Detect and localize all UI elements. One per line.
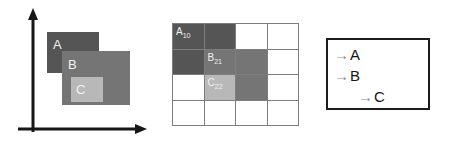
three-panel-diagram: A B C A10B21C22 → A → B → C [0,0,454,144]
rectangle-b-label: B [68,58,77,71]
x-axis-arrowhead [135,124,147,134]
arrow-list-box: → A → B → C [326,38,430,110]
grid-cell [236,75,268,101]
arrow-right-icon: → [334,47,349,62]
grid-cell-subscript: 10 [183,32,191,39]
grid-panel: A10B21C22 [172,23,294,121]
axes-rectangles-panel: A B C [0,0,151,144]
grid-table: A10B21C22 [172,23,299,126]
grid-cell [173,100,205,126]
rectangle-c-label: C [76,83,85,96]
arrow-right-icon: → [358,89,373,104]
list-item: → A [334,47,360,62]
list-item-label: C [374,89,385,104]
rectangle-a-label: A [53,38,62,51]
list-item-label: A [350,47,360,62]
list-item: → B [334,68,360,83]
grid-cell: B21 [204,49,236,75]
grid-cell [267,49,299,75]
arrow-right-icon: → [334,68,349,83]
grid-cell-label: A10 [176,27,190,39]
grid-cell [236,24,268,50]
grid-row: C22 [173,75,299,101]
grid-cell-subscript: 22 [215,83,223,90]
grid-row: A10 [173,24,299,50]
list-item-label: B [350,68,360,83]
grid-row: B21 [173,49,299,75]
grid-cell [204,100,236,126]
grid-cell-label: C22 [208,78,223,90]
grid-cell: C22 [204,75,236,101]
grid-cell [267,24,299,50]
list-item: → C [358,89,385,104]
grid-cell [173,49,205,75]
y-axis-arrowhead [28,8,38,20]
grid-row [173,100,299,126]
grid-cell-subscript: 21 [214,58,222,65]
grid-cell [267,100,299,126]
grid-cell-label: B21 [208,53,222,65]
grid-cell [236,100,268,126]
grid-cell [267,75,299,101]
grid-cell: A10 [173,24,205,50]
grid-cell [173,75,205,101]
grid-cell [236,49,268,75]
grid-cell [204,24,236,50]
